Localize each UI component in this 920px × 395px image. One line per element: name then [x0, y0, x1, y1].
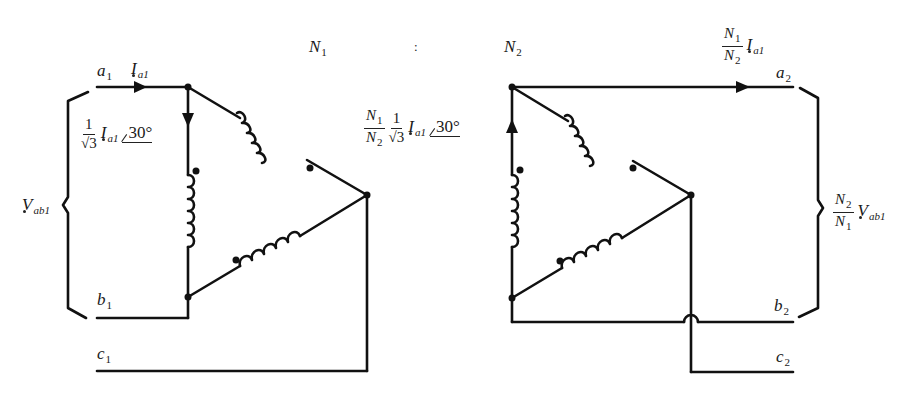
polarity-dot-icon — [630, 165, 637, 172]
arrow-right-icon — [134, 81, 147, 93]
secondary-voltage-label: N2N1Vab1 — [833, 192, 885, 232]
primary-phase-current-label: 1√3Ia130° — [81, 117, 152, 152]
terminal-c2-label: c2 — [776, 348, 790, 368]
terminal-c1-label: c1 — [97, 345, 111, 365]
polarity-dot-icon — [557, 258, 564, 265]
node-primary-top — [185, 84, 192, 91]
coil-primary-upper — [237, 112, 265, 163]
secondary-winding-delta — [512, 87, 823, 372]
ratio-separator: : — [414, 40, 418, 53]
polarity-dot-icon — [233, 257, 240, 264]
turns-primary-label: N1 — [309, 38, 327, 58]
arrow-down-icon — [182, 113, 194, 127]
arrow-up-icon — [506, 119, 518, 133]
coil-primary-vertical — [188, 175, 194, 247]
terminal-a2-label: a2 — [776, 64, 791, 84]
node-secondary-top — [509, 84, 516, 91]
wire-upper-diagonal-2 — [307, 160, 367, 195]
turns-secondary-label: N2 — [504, 38, 522, 58]
primary-line-current-label: Ia1 — [131, 60, 149, 80]
primary-voltage-label: Vab1 — [22, 196, 50, 216]
secondary-line-current-label: N1N2Ia1 — [722, 26, 764, 66]
coil-secondary-lower — [562, 234, 622, 268]
terminal-b2-label: b2 — [774, 297, 789, 317]
coil-secondary-vertical — [512, 175, 518, 247]
wire-lower-diagonal-2 — [300, 195, 367, 236]
voltage-brace-secondary — [799, 88, 823, 317]
arrow-right-icon — [736, 81, 750, 93]
terminal-b1-label: b1 — [97, 291, 112, 311]
coil-primary-lower — [240, 232, 300, 266]
wire-upper-diagonal — [188, 87, 240, 118]
node-primary-right — [364, 192, 371, 199]
polarity-dot-icon — [517, 167, 524, 174]
node-primary-bottom — [185, 294, 192, 301]
secondary-phase-current-label: N1N21√3Ia130° — [364, 108, 460, 148]
wire-lower-diagonal — [188, 266, 240, 297]
node-secondary-right — [688, 192, 695, 199]
node-secondary-bottom — [509, 295, 516, 302]
terminal-a1-label: a1 — [97, 62, 112, 82]
polarity-dot-icon — [193, 168, 200, 175]
polarity-dot-icon — [307, 165, 314, 172]
coil-secondary-upper — [565, 115, 593, 166]
